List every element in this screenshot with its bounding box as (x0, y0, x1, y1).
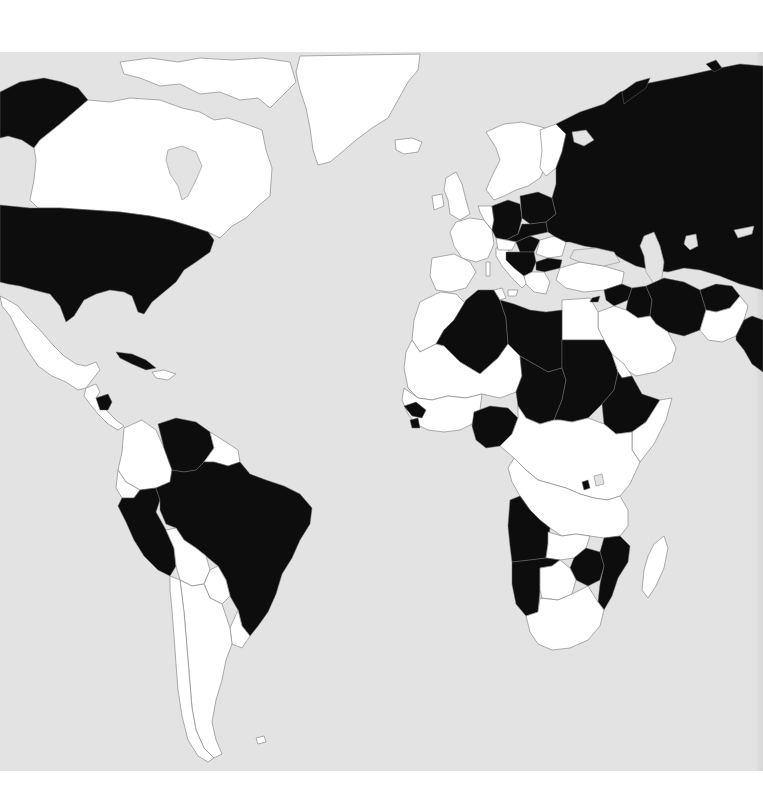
country-ireland[interactable] (432, 194, 444, 210)
country-mozambique[interactable] (598, 536, 630, 610)
country-egypt[interactable] (562, 298, 604, 340)
world-map (0, 52, 763, 771)
country-greece-albania[interactable] (524, 272, 550, 294)
sardinia-corsica (486, 262, 490, 276)
iceland (395, 138, 422, 154)
country-hispaniola (152, 370, 176, 380)
country-sierra-leone[interactable] (410, 418, 420, 428)
country-mexico[interactable] (0, 296, 100, 390)
country-madagascar[interactable] (642, 536, 668, 598)
falkland-islands (256, 736, 266, 744)
lake-victoria (594, 474, 604, 486)
country-bulgaria[interactable] (536, 258, 562, 272)
map-canvas (0, 52, 763, 771)
sicily (508, 290, 518, 296)
country-united-kingdom[interactable] (444, 172, 470, 220)
cyprus (590, 296, 600, 302)
country-cuba[interactable] (116, 352, 156, 370)
